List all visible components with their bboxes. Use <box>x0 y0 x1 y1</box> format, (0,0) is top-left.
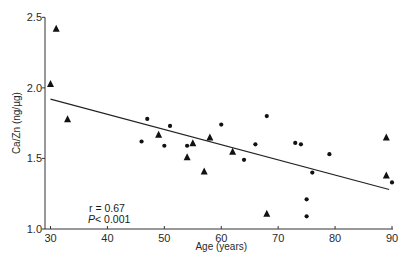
dot-point <box>145 117 149 121</box>
y-tick-label: 2.0 <box>27 82 42 94</box>
triangle-point <box>383 134 390 141</box>
x-tick-label: 50 <box>158 232 170 244</box>
dot-point <box>219 122 223 126</box>
x-tick-label: 70 <box>272 232 284 244</box>
x-tick-label: 30 <box>44 232 56 244</box>
data-points <box>47 25 394 219</box>
axes <box>45 17 393 229</box>
dot-point <box>168 124 172 128</box>
p-value-annotation: P< 0.001 <box>88 213 131 225</box>
triangle-point <box>206 134 213 141</box>
dot-point <box>327 152 331 156</box>
dot-point <box>265 114 269 118</box>
y-axis-label: Ca/Zn (ng/µg) <box>11 92 22 154</box>
x-tick-label: 40 <box>101 232 113 244</box>
triangle-point <box>53 25 60 32</box>
dot-point <box>305 197 309 201</box>
regression-line <box>51 99 390 189</box>
triangle-point <box>383 172 390 179</box>
dot-point <box>162 144 166 148</box>
triangle-point <box>189 139 196 146</box>
triangle-point <box>201 167 208 174</box>
dot-point <box>293 141 297 145</box>
y-tick-label: 2.5 <box>27 11 42 23</box>
dot-point <box>390 180 394 184</box>
dot-point <box>305 214 309 218</box>
p-symbol: P <box>88 213 95 225</box>
dot-point <box>139 139 143 143</box>
dot-point <box>185 144 189 148</box>
x-tick-label: 90 <box>386 232 398 244</box>
y-tick-label: 1.0 <box>27 223 42 235</box>
triangle-point <box>263 210 270 217</box>
p-value-text: < 0.001 <box>95 213 130 225</box>
triangle-point <box>47 80 54 87</box>
dot-point <box>253 142 257 146</box>
x-axis-label: Age (years) <box>195 241 247 252</box>
triangle-point <box>184 153 191 160</box>
triangle-point <box>155 131 162 138</box>
triangle-point <box>64 115 71 122</box>
scatter-chart: 30405060708090 1.01.52.02.5 Age (years) … <box>0 0 410 263</box>
x-tick-label: 80 <box>329 232 341 244</box>
dot-point <box>299 142 303 146</box>
dot-point <box>242 158 246 162</box>
y-ticks: 1.01.52.02.5 <box>27 11 45 235</box>
y-tick-label: 1.5 <box>27 152 42 164</box>
dot-point <box>310 170 314 174</box>
